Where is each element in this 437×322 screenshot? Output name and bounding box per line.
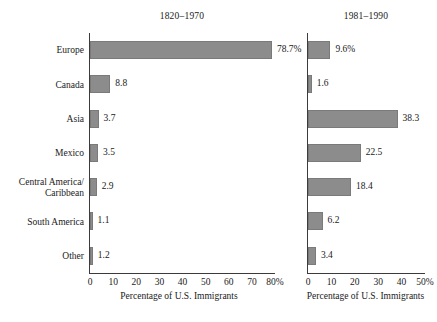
plot-area-right: 9.6%1.638.322.518.46.23.4 01020304050% P… bbox=[307, 33, 425, 273]
bar bbox=[90, 144, 98, 162]
bar-value-label: 3.5 bbox=[103, 145, 115, 159]
bar-row: 78.7% bbox=[90, 33, 275, 67]
bar bbox=[308, 212, 323, 230]
bar-value-label: 6.2 bbox=[328, 213, 340, 227]
bar-row: 22.5 bbox=[308, 136, 425, 170]
bar-row: 6.2 bbox=[308, 204, 425, 238]
bar-value-label: 38.3 bbox=[403, 111, 420, 125]
x-tick-label: 0 bbox=[306, 277, 311, 287]
chart-panel-1820-1970: 1820–1970 EuropeCanadaAsiaMexicoCentral … bbox=[0, 0, 288, 322]
x-tick-label: 40 bbox=[397, 277, 407, 287]
bar bbox=[90, 247, 93, 265]
panel-title-left: 1820–1970 bbox=[89, 11, 275, 21]
category-axis-labels: EuropeCanadaAsiaMexicoCentral America/ C… bbox=[0, 33, 84, 273]
x-tick-label: 20 bbox=[350, 277, 360, 287]
bar-value-label: 9.6% bbox=[335, 42, 355, 56]
bar-row: 1.1 bbox=[90, 204, 275, 238]
bar-row: 3.7 bbox=[90, 102, 275, 136]
bar-row: 9.6% bbox=[308, 33, 425, 67]
category-label: Europe bbox=[0, 45, 84, 57]
bar-value-label: 1.6 bbox=[317, 76, 329, 90]
bar bbox=[308, 110, 398, 128]
bar bbox=[308, 41, 330, 59]
x-tick-label: 50% bbox=[416, 277, 433, 287]
x-tick-labels-right: 01020304050% bbox=[307, 274, 425, 290]
panel-title-right: 1981–1990 bbox=[307, 11, 425, 21]
bar-row: 38.3 bbox=[308, 102, 425, 136]
bar-row: 18.4 bbox=[308, 170, 425, 204]
x-tick-label: 10 bbox=[108, 277, 118, 287]
x-tick-label: 80% bbox=[266, 277, 283, 287]
bar-row: 2.9 bbox=[90, 170, 275, 204]
bar-row: 3.5 bbox=[90, 136, 275, 170]
bar-value-label: 1.1 bbox=[98, 213, 110, 227]
bar bbox=[308, 247, 316, 265]
bar bbox=[308, 75, 312, 93]
bar-value-label: 22.5 bbox=[366, 145, 383, 159]
category-label: Central America/ Caribbean bbox=[0, 177, 84, 200]
category-label: Mexico bbox=[0, 148, 84, 160]
category-label: Canada bbox=[0, 80, 84, 92]
plot-area-left: 78.7%8.83.73.52.91.11.2 0102030405060708… bbox=[89, 33, 275, 273]
bar bbox=[308, 178, 351, 196]
x-tick-label: 40 bbox=[178, 277, 188, 287]
category-label: South America bbox=[0, 217, 84, 229]
x-tick-label: 60 bbox=[224, 277, 234, 287]
bar bbox=[90, 212, 93, 230]
x-tick-label: 0 bbox=[88, 277, 93, 287]
x-tick-labels-left: 01020304050607080% bbox=[89, 274, 275, 290]
bar-row: 1.6 bbox=[308, 67, 425, 101]
x-tick-label: 10 bbox=[327, 277, 337, 287]
bar-value-label: 8.8 bbox=[115, 76, 127, 90]
bar bbox=[90, 75, 110, 93]
x-tick-label: 20 bbox=[132, 277, 142, 287]
bar-value-label: 2.9 bbox=[102, 179, 114, 193]
bar-value-label: 3.7 bbox=[104, 111, 116, 125]
bar-row: 8.8 bbox=[90, 67, 275, 101]
bar bbox=[90, 110, 99, 128]
bar-series-left: 78.7%8.83.73.52.91.11.2 bbox=[90, 33, 275, 273]
chart-panel-1981-1990: 1981–1990 9.6%1.638.322.518.46.23.4 0102… bbox=[288, 0, 437, 322]
x-axis-title-left: Percentage of U.S. Immigrants bbox=[59, 291, 299, 301]
x-axis-title-right: Percentage of U.S. Immigrants bbox=[293, 291, 437, 301]
x-tick-label: 30 bbox=[373, 277, 383, 287]
bar-row: 1.2 bbox=[90, 239, 275, 273]
bar-value-label: 18.4 bbox=[356, 179, 373, 193]
bar bbox=[90, 41, 272, 59]
category-label: Asia bbox=[0, 114, 84, 126]
bar bbox=[90, 178, 97, 196]
bar-series-right: 9.6%1.638.322.518.46.23.4 bbox=[308, 33, 425, 273]
bar-value-label: 3.4 bbox=[321, 248, 333, 262]
bar-value-label: 1.2 bbox=[98, 248, 110, 262]
x-tick-label: 70 bbox=[247, 277, 257, 287]
x-tick-label: 50 bbox=[201, 277, 211, 287]
category-label: Other bbox=[0, 251, 84, 263]
bar bbox=[308, 144, 361, 162]
immigration-bar-chart-figure: 1820–1970 EuropeCanadaAsiaMexicoCentral … bbox=[0, 0, 437, 322]
bar-row: 3.4 bbox=[308, 239, 425, 273]
x-tick-label: 30 bbox=[155, 277, 165, 287]
